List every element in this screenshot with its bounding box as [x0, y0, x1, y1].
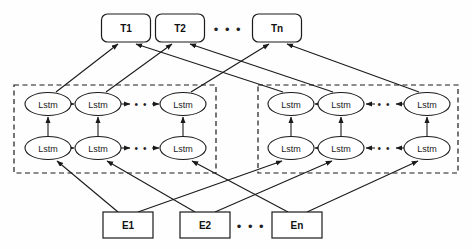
- output-node-tn: Tn: [253, 14, 302, 42]
- lstm-node: Lstm: [160, 93, 206, 116]
- backward-upper-ellipsis: • •: [378, 99, 391, 110]
- lstm-node: Lstm: [25, 137, 71, 160]
- lstm-label: Lstm: [331, 100, 351, 110]
- lstm-node: Lstm: [268, 137, 314, 160]
- input-node-en: En: [272, 212, 322, 238]
- lstm-label: Lstm: [281, 100, 301, 110]
- lstm-node: Lstm: [75, 137, 121, 160]
- output-nodes: T1 T2 Tn • • •: [102, 14, 302, 42]
- input-label: E2: [199, 220, 212, 231]
- diagram-canvas: Lstm Lstm Lstm Lstm Lstm Lstm •: [0, 0, 472, 249]
- lstm-label: Lstm: [173, 100, 193, 110]
- lstm-node: Lstm: [160, 137, 206, 160]
- input-to-lstm-edges: [57, 161, 418, 212]
- lstm-label: Lstm: [331, 144, 351, 154]
- forward-upper-ellipsis: • •: [135, 99, 148, 110]
- lstm-label: Lstm: [281, 144, 301, 154]
- lstm-node: Lstm: [404, 137, 450, 160]
- lstm-node: Lstm: [404, 93, 450, 116]
- lstm-label: Lstm: [417, 100, 437, 110]
- input-node-e1: E1: [103, 212, 153, 238]
- lstm-node: Lstm: [25, 93, 71, 116]
- lstm-label: Lstm: [173, 144, 193, 154]
- lstm-label: Lstm: [88, 144, 108, 154]
- lstm-label: Lstm: [38, 144, 58, 154]
- forward-lower-ellipsis: • •: [135, 143, 148, 154]
- input-label: En: [291, 220, 304, 231]
- lstm-node: Lstm: [268, 93, 314, 116]
- output-label: Tn: [271, 23, 283, 34]
- input-label: E1: [122, 220, 135, 231]
- backward-lower-ellipsis: • •: [378, 143, 391, 154]
- input-node-e2: E2: [180, 212, 230, 238]
- lstm-node: Lstm: [75, 93, 121, 116]
- lstm-node: Lstm: [318, 93, 364, 116]
- input-nodes: E1 E2 En • • •: [103, 212, 322, 238]
- output-ellipsis: • • •: [214, 22, 242, 37]
- lstm-label: Lstm: [417, 144, 437, 154]
- output-label: T2: [174, 23, 186, 34]
- bilstm-diagram: Lstm Lstm Lstm Lstm Lstm Lstm •: [0, 0, 472, 249]
- input-ellipsis: • • •: [237, 219, 265, 234]
- output-node-t1: T1: [102, 14, 151, 42]
- lstm-node: Lstm: [318, 137, 364, 160]
- output-label: T1: [120, 23, 132, 34]
- forward-lstm-nodes: Lstm Lstm Lstm Lstm Lstm Lstm •: [25, 93, 206, 160]
- output-node-t2: T2: [156, 14, 205, 42]
- lstm-label: Lstm: [38, 100, 58, 110]
- backward-lstm-nodes: Lstm Lstm Lstm Lstm Lstm Lstm •: [268, 93, 450, 160]
- lstm-label: Lstm: [88, 100, 108, 110]
